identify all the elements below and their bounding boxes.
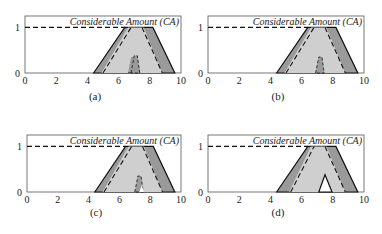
x-tick-label: 10 [359,75,369,86]
x-tick-label: 6 [299,194,304,205]
x-tick-label: 8 [330,75,335,86]
subplot-caption: (b) [272,90,285,103]
subplot-caption: (a) [89,90,102,103]
x-tick-label: 0 [23,75,28,86]
subplot-title: Considerable Amount (CA) [70,16,180,28]
x-tick-label: 2 [54,75,59,86]
x-tick-label: 8 [147,75,152,86]
x-tick-label: 8 [148,194,153,205]
x-tick-label: 6 [116,75,121,86]
subplot-caption: (c) [90,206,103,219]
x-tick-label: 0 [25,194,30,205]
x-tick-label: 10 [176,75,186,86]
y-tick-label: 0 [198,187,203,198]
y-tick-label: 1 [17,141,22,152]
y-tick-label: 0 [17,187,22,198]
x-tick-label: 10 [359,194,369,205]
x-tick-label: 0 [206,194,211,205]
x-tick-label: 6 [299,75,304,86]
subplot-title: Considerable Amount (CA) [253,16,363,28]
subplot-b: Considerable Amount (CA)024681001(b) [198,16,369,103]
x-tick-label: 6 [117,194,122,205]
subplot-title: Considerable Amount (CA) [253,135,363,147]
x-tick-label: 4 [85,75,90,86]
y-tick-label: 1 [198,22,203,33]
subplot-a: Considerable Amount (CA)024681001(a) [15,16,186,103]
subplot-d: Considerable Amount (CA)024681001(d) [198,135,369,219]
x-tick-label: 4 [268,194,273,205]
x-tick-label: 4 [268,75,273,86]
figure: Considerable Amount (CA)024681001(a)Cons… [0,0,382,234]
subplot-title: Considerable Amount (CA) [70,135,180,147]
x-tick-label: 10 [176,194,186,205]
y-tick-label: 1 [198,141,203,152]
x-tick-label: 0 [206,75,211,86]
x-tick-label: 2 [237,194,242,205]
y-tick-label: 1 [15,22,20,33]
x-tick-label: 8 [330,194,335,205]
subplot-c: Considerable Amount (CA)024681001(c) [17,135,186,219]
x-tick-label: 2 [237,75,242,86]
subplot-caption: (d) [272,206,285,219]
y-tick-label: 0 [198,68,203,79]
y-tick-label: 0 [15,68,20,79]
x-tick-label: 2 [55,194,60,205]
x-tick-label: 4 [86,194,91,205]
